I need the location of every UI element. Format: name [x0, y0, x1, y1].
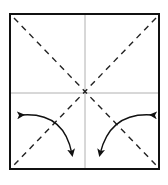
diagram-canvas	[0, 0, 168, 185]
origami-diagram	[0, 0, 168, 185]
right-fold-arrow	[100, 115, 152, 154]
